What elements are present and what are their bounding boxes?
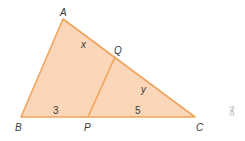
vertex-label-p: P — [84, 122, 91, 133]
vertex-label-a: A — [59, 7, 67, 18]
vertex-label-c: C — [196, 122, 204, 133]
credit-label: DAE — [229, 105, 235, 116]
triangle-diagram: A Q B P C x y 3 5 DAE — [0, 0, 245, 141]
vertex-label-b: B — [15, 122, 22, 133]
segment-label-bp: 3 — [53, 105, 59, 116]
segment-label-aq: x — [80, 39, 87, 50]
segment-label-qc: y — [140, 84, 147, 95]
triangle-abc — [21, 19, 195, 117]
segment-label-pc: 5 — [135, 105, 141, 116]
vertex-label-q: Q — [114, 45, 122, 56]
